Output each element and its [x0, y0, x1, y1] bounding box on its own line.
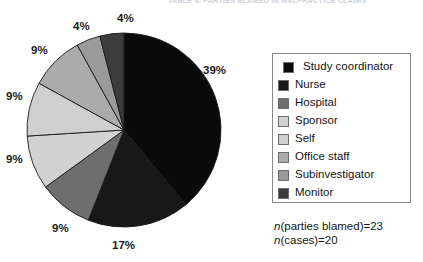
legend-label-nurse: Nurse: [295, 79, 326, 91]
annotation-text-1: (parties blamed)=23: [280, 220, 383, 232]
legend-swatch-hospital: [278, 98, 289, 109]
pie-slices: [27, 33, 221, 227]
figure-pie-chart-parties-blamed: TABLE 4. PARTIES BLAMED IN MALPRACTICE C…: [0, 0, 423, 262]
annotation-text-2: (cases)=20: [280, 234, 337, 246]
legend: Study coordinator Nurse Hospital Sponsor…: [272, 53, 411, 203]
legend-label-hospital: Hospital: [295, 97, 337, 109]
legend-item-office-staff: Office staff: [278, 148, 410, 166]
pie-percent-label-2: 9%: [52, 222, 69, 234]
legend-swatch-self: [278, 134, 289, 145]
pie-percent-label-4: 9%: [6, 90, 23, 102]
legend-item-nurse: Nurse: [278, 76, 410, 94]
pie-chart: [26, 32, 222, 228]
legend-item-monitor: Monitor: [278, 184, 410, 202]
legend-item-subinvestigator: Subinvestigator: [278, 166, 410, 184]
legend-item-sponsor: Sponsor: [278, 112, 410, 130]
legend-swatch-study-coordinator: [283, 62, 294, 73]
chart-annotation: n(parties blamed)=23 n(cases)=20: [274, 219, 419, 247]
pie-percent-label-7: 4%: [117, 12, 134, 24]
legend-label-monitor: Monitor: [295, 187, 333, 199]
legend-label-subinvestigator: Subinvestigator: [295, 169, 374, 181]
pie-percent-label-1: 17%: [112, 239, 135, 251]
pie-chart-svg: [26, 32, 222, 228]
legend-swatch-sponsor: [278, 116, 289, 127]
legend-label-office-staff: Office staff: [295, 151, 350, 163]
legend-item-self: Self: [278, 130, 410, 148]
pie-percent-label-0: 39%: [203, 64, 226, 76]
legend-label-sponsor: Sponsor: [295, 115, 338, 127]
legend-swatch-nurse: [278, 80, 289, 91]
legend-swatch-monitor: [278, 188, 289, 199]
legend-swatch-office-staff: [278, 152, 289, 163]
legend-item-hospital: Hospital: [278, 94, 410, 112]
pie-percent-label-6: 4%: [73, 20, 90, 32]
legend-item-study-coordinator: Study coordinator: [278, 58, 410, 76]
legend-label-study-coordinator: Study coordinator: [303, 61, 393, 73]
annotation-line-cases: n(cases)=20: [274, 233, 419, 247]
legend-swatch-subinvestigator: [278, 170, 289, 181]
legend-label-self: Self: [295, 133, 315, 145]
pie-percent-label-5: 9%: [31, 44, 48, 56]
annotation-line-parties-blamed: n(parties blamed)=23: [274, 219, 419, 233]
pie-percent-label-3: 9%: [6, 153, 23, 165]
running-header: TABLE 4. PARTIES BLAMED IN MALPRACTICE C…: [168, 0, 418, 5]
